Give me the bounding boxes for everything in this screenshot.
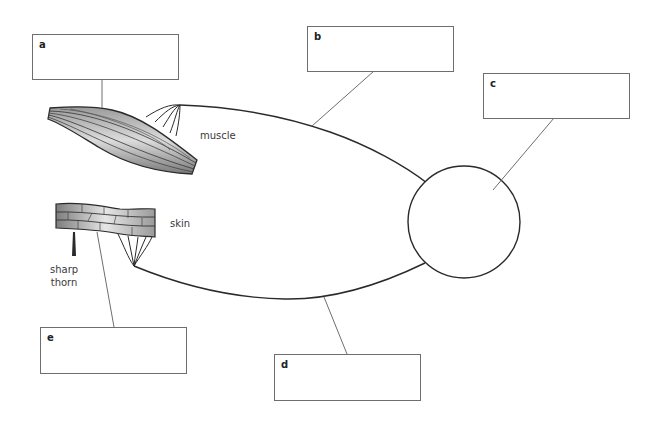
sharp-thorn-label-line1: sharp xyxy=(50,263,78,276)
box-letter-b: b xyxy=(314,31,321,42)
spinal-cord-circle xyxy=(408,166,520,278)
pointer-b xyxy=(312,71,374,126)
pointer-e xyxy=(97,232,114,327)
answer-box-b[interactable]: b xyxy=(307,26,454,72)
box-letter-d: d xyxy=(281,359,288,370)
pointer-c xyxy=(493,118,554,190)
answer-box-a[interactable]: a xyxy=(32,34,179,80)
sharp-thorn-label-line2: thorn xyxy=(50,276,78,289)
motor-neuron xyxy=(180,105,427,183)
sensory-neuron xyxy=(134,263,425,299)
sensory-neuron-endings xyxy=(118,234,152,266)
muscle-illustration xyxy=(48,107,197,174)
muscle-label: muscle xyxy=(200,129,236,142)
answer-box-e[interactable]: e xyxy=(40,327,187,374)
skin-label: skin xyxy=(170,217,190,230)
skin-illustration xyxy=(56,203,155,237)
answer-box-d[interactable]: d xyxy=(274,354,421,401)
box-letter-c: c xyxy=(490,78,496,89)
box-letter-a: a xyxy=(39,39,46,50)
sharp-thorn-label: sharp thorn xyxy=(50,263,78,289)
pointer-d xyxy=(324,297,347,354)
box-letter-e: e xyxy=(47,332,54,343)
sharp-thorn-icon xyxy=(72,232,76,256)
answer-box-c[interactable]: c xyxy=(483,73,630,119)
